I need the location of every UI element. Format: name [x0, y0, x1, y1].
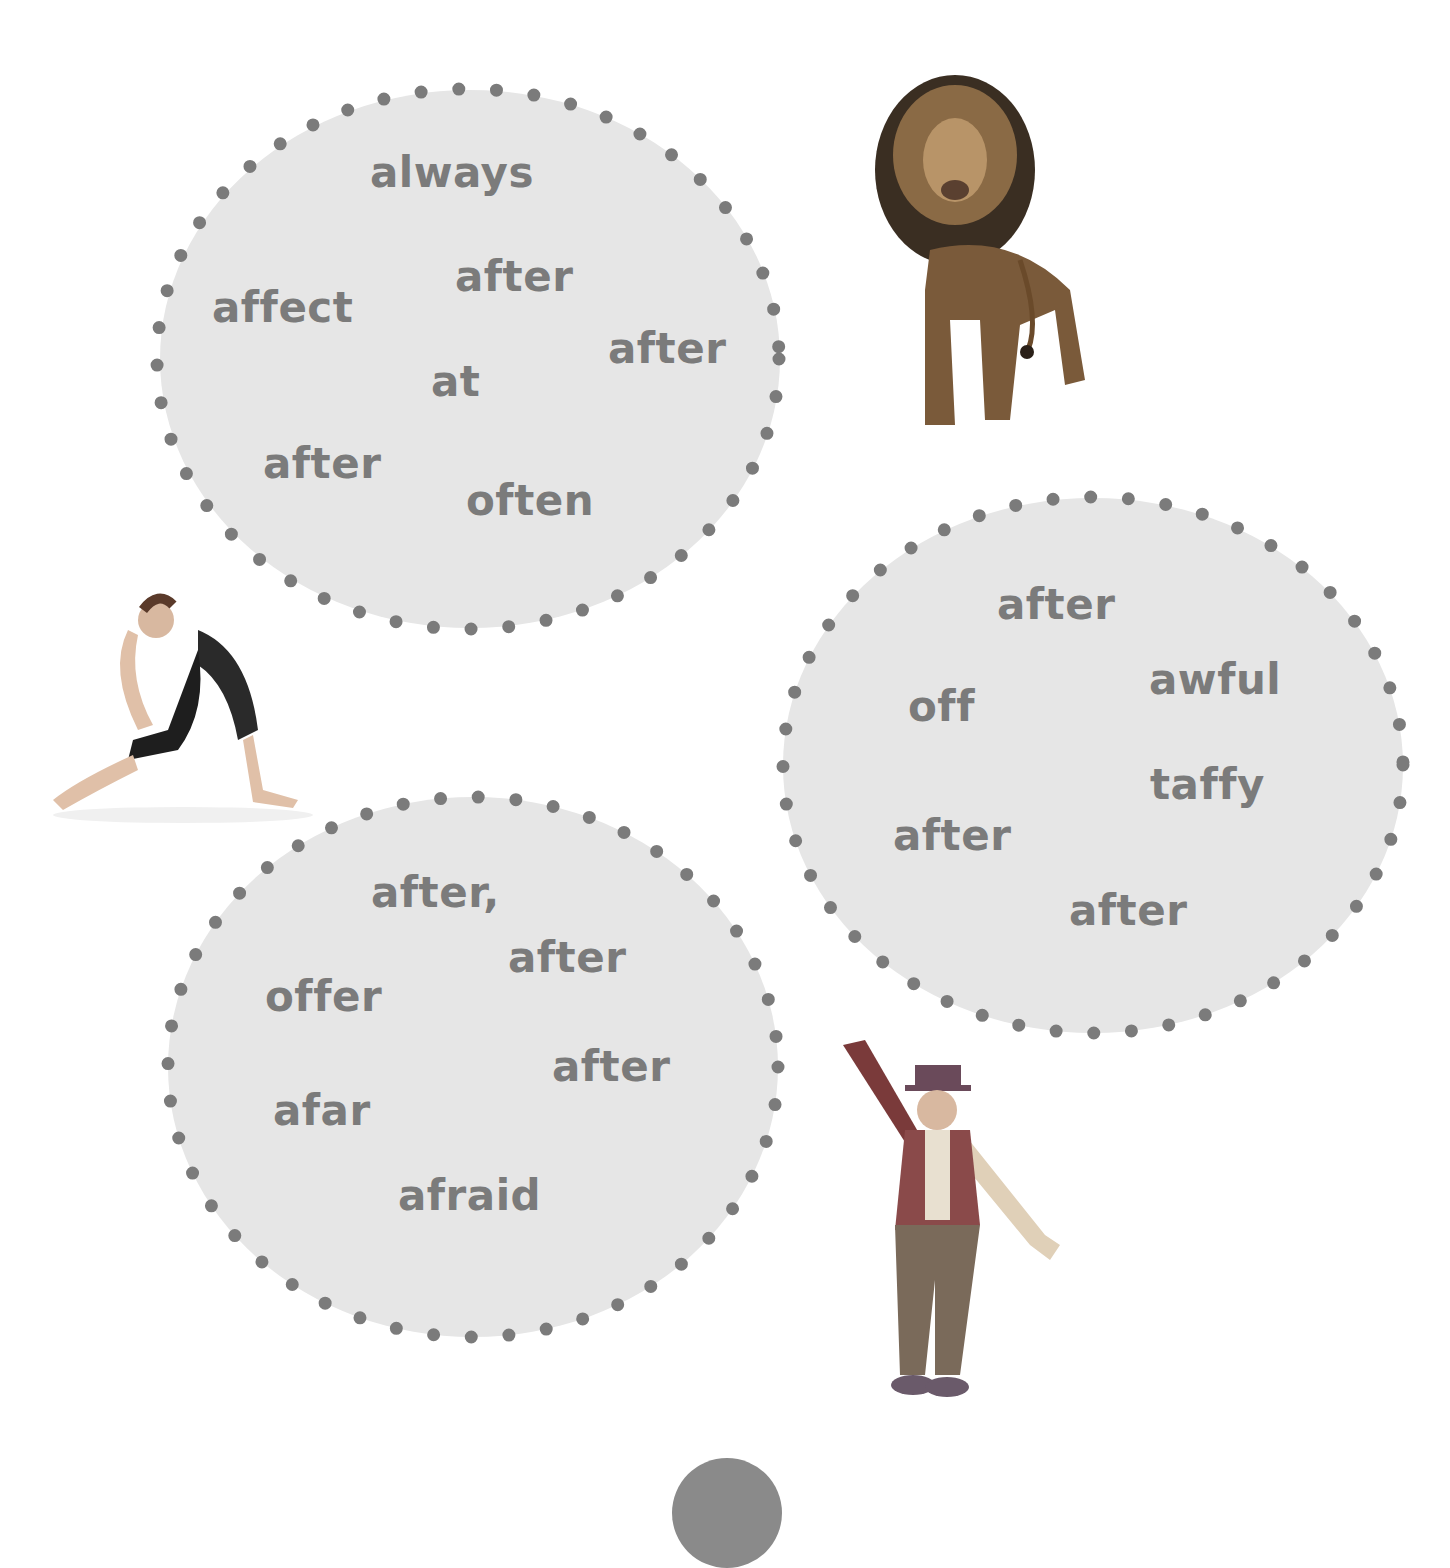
word-affect: affect [212, 287, 353, 329]
word-after: after [552, 1046, 670, 1088]
word-afraid: afraid [398, 1175, 541, 1217]
word-offer: offer [265, 976, 382, 1018]
word-after: after [508, 937, 626, 979]
word-often: often [466, 480, 594, 522]
word-after: after [608, 328, 726, 370]
gymnast-image [48, 590, 318, 825]
word-after: after [997, 584, 1115, 626]
word-off: off [908, 686, 975, 728]
word-after: after [1069, 890, 1187, 932]
word-awful: awful [1149, 659, 1281, 701]
word-after: after [263, 443, 381, 485]
word-after: after [455, 256, 573, 298]
clown-image [835, 1035, 1070, 1420]
word-after: after [893, 815, 1011, 857]
word-after-comma: after, [371, 872, 500, 914]
word-at: at [431, 361, 480, 403]
word-oval-right [783, 498, 1403, 1033]
page-number-badge [672, 1458, 782, 1568]
word-afar: afar [273, 1090, 371, 1132]
lion-image [870, 60, 1110, 435]
word-taffy: taffy [1150, 764, 1265, 806]
word-always: always [370, 152, 534, 194]
